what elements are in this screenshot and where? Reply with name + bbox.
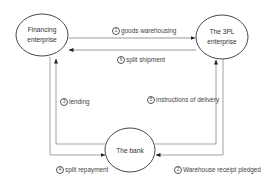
edge-6-label: 6split shipment [117,56,165,64]
edge-5-label: 5instructions of delivery [147,96,219,104]
node-financing-label: Financing enterprise [17,25,67,44]
step-number-badge: 3 [60,98,68,106]
edge-2-arrow [156,59,223,155]
edge-3-label: 3lending [60,98,90,106]
edge-4-label: 4split repayment [56,166,108,174]
edge-1-label: 1goods warehousing [112,27,176,35]
node-3pl-label: The 3PL enterprise [197,27,247,46]
step-number-badge: 1 [112,27,120,35]
step-number-badge: 2 [174,166,182,174]
step-number-badge: 6 [117,56,125,64]
step-number-badge: 4 [56,166,64,174]
edge-4-arrow [50,57,105,155]
edge-2-label: 2Warehouse receipt pledged [174,166,261,174]
node-bank-label: The bank [105,146,155,156]
step-number-badge: 5 [147,96,155,104]
